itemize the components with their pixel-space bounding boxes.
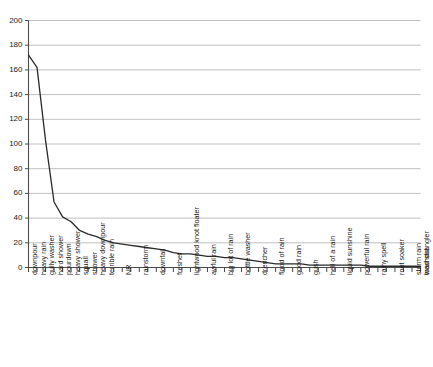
x-axis-tick-label: gully washer (48, 235, 55, 275)
x-axis-tick-label: freshet (176, 253, 183, 275)
x-axis-tick-label: liquid sunshine (346, 227, 353, 275)
x-axis-tick-label: heavy shower (74, 230, 81, 274)
x-axis-tick-label: downfall (159, 248, 166, 274)
x-axis-tick-label: washout (423, 248, 430, 275)
x-axis-tick-label: big lot of rain (227, 233, 234, 274)
x-axis-tick-label: shower (91, 251, 98, 274)
x-axis-tick-label: hard shower (57, 235, 64, 275)
x-axis-tick-label: squall (82, 256, 89, 275)
x-axis-tick-label: rainstorm (142, 245, 149, 275)
x-axis-tick-label: pourdown (65, 243, 72, 275)
chart-container: 020406080100120140160180200 downpourheav… (0, 0, 433, 367)
x-axis-tick-label: flood of rain (278, 237, 285, 275)
x-axis-tick-label: NR (125, 264, 132, 274)
x-axis-tick-label: good rain (295, 245, 302, 275)
x-axis-tick-label: drencher (261, 246, 268, 274)
x-axis-tick-label: heavy downpour (99, 222, 106, 275)
x-axis-tick-label: gush (312, 259, 319, 275)
x-axis-category-labels: downpourheavy raingully washerhard showe… (0, 0, 433, 367)
x-axis-tick-label: hell of a rain (329, 235, 336, 274)
x-axis-tick-label: downpour (31, 243, 38, 275)
x-axis-tick-label: awful rain (210, 244, 217, 275)
x-axis-tick-label: bottle washer (244, 232, 251, 275)
x-axis-tick-label: heavy rain (40, 241, 47, 274)
x-axis-tick-label: lightwood knot floater (193, 207, 200, 275)
x-axis-tick-label: rainy spell (380, 242, 387, 274)
x-axis-tick-label: storm rain (415, 243, 422, 275)
x-axis-tick-label: powerful rain (363, 233, 370, 274)
x-axis-tick-label: root soaker (398, 239, 405, 275)
x-axis-tick-label: terrible rain (108, 239, 115, 275)
